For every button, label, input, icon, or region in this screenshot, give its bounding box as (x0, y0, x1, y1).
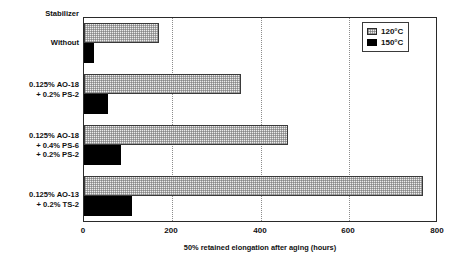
bar-150c-ao18-ps6-ps2 (84, 145, 121, 165)
category-label-ao18-ps6-ps2: 0.125% AO-18 + 0.4% PS-6 + 0.2% PS-2 (0, 131, 79, 160)
bar-150c-without (84, 43, 94, 63)
x-axis-title: 50% retained elongation after aging (hou… (83, 243, 437, 252)
category-label-line: 0.125% AO-13 (0, 190, 79, 200)
category-label-line: + 0.4% PS-6 (0, 141, 79, 151)
legend-item-120c: 120°C (367, 26, 403, 37)
category-label-line: Without (0, 38, 79, 48)
legend-item-150c: 150°C (367, 37, 403, 48)
category-label-line: 0.125% AO-18 (0, 131, 79, 141)
x-tick-800: 800 (430, 226, 443, 235)
legend-swatch-120c-icon (367, 28, 377, 35)
x-tick-0: 0 (81, 226, 85, 235)
category-label-line: + 0.2% PS-2 (0, 150, 79, 160)
category-label-line: + 0.2% PS-2 (0, 90, 79, 100)
y-axis-header: Stabilizer (0, 9, 79, 19)
bar-120c-ao13-ts2 (84, 176, 423, 196)
bar-120c-without (84, 23, 159, 43)
category-label-without: Without (0, 38, 79, 48)
x-tick-600: 600 (341, 226, 354, 235)
chart-figure: Stabilizer Without 0.125% AO-18 + 0.2% P… (0, 0, 458, 265)
legend-label-120c: 120°C (381, 27, 403, 36)
legend-swatch-150c-icon (367, 39, 377, 46)
category-label-line: + 0.2% TS-2 (0, 200, 79, 210)
bar-150c-ao13-ts2 (84, 196, 132, 216)
category-label-ao18-ps2: 0.125% AO-18 + 0.2% PS-2 (0, 80, 79, 99)
category-label-line: 0.125% AO-18 (0, 80, 79, 90)
legend-label-150c: 150°C (381, 38, 403, 47)
category-axis-labels: Stabilizer Without 0.125% AO-18 + 0.2% P… (0, 0, 79, 265)
category-label-ao13-ts2: 0.125% AO-13 + 0.2% TS-2 (0, 190, 79, 209)
y-axis-header-text: Stabilizer (45, 9, 79, 18)
bar-120c-ao18-ps6-ps2 (84, 125, 288, 145)
legend: 120°C 150°C (362, 22, 409, 52)
x-tick-400: 400 (253, 226, 266, 235)
x-tick-200: 200 (164, 226, 177, 235)
bar-120c-ao18-ps2 (84, 74, 241, 94)
bar-150c-ao18-ps2 (84, 94, 108, 114)
